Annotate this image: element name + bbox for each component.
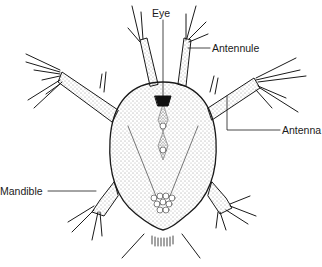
- label-eye: Eye: [152, 8, 170, 19]
- label-antenna: Antenna: [282, 125, 321, 136]
- eye-spot: [155, 96, 171, 106]
- antenna-right: [208, 58, 306, 120]
- label-mandible: Mandible: [0, 186, 43, 197]
- nauplius-illustration: [0, 0, 322, 267]
- caudal-fringe: [152, 236, 173, 246]
- label-antennule: Antennule: [212, 43, 259, 54]
- mandible-right: [208, 182, 256, 230]
- antennule-right: [178, 6, 208, 86]
- diagram: Eye Antennule Antenna Mandible: [0, 0, 322, 267]
- antenna-left: [26, 54, 118, 122]
